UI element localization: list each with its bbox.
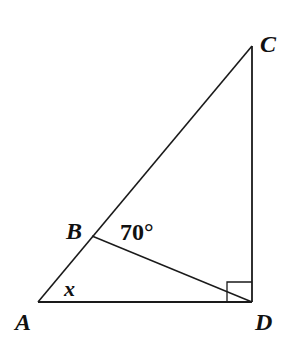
geometry-diagram: C B A D 70° x xyxy=(0,0,301,350)
angle-label-70: 70° xyxy=(120,219,154,245)
segment-ac xyxy=(38,46,252,302)
point-label-c: C xyxy=(260,31,277,57)
angle-label-x: x xyxy=(63,276,75,301)
point-label-b: B xyxy=(65,218,82,244)
point-label-a: A xyxy=(13,309,31,335)
point-label-d: D xyxy=(254,309,272,335)
segment-bd xyxy=(92,236,252,302)
right-angle-marker xyxy=(227,282,252,302)
